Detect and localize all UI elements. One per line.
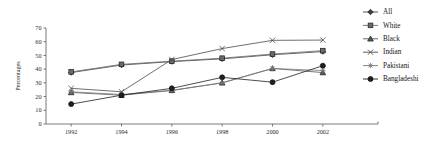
marker-square — [69, 70, 74, 75]
marker-circle — [69, 102, 74, 107]
legend-label-black: Black — [383, 35, 400, 43]
y-tick-label: 70 — [35, 24, 41, 31]
series-line-bangladeshi — [71, 66, 323, 104]
series-white — [69, 48, 325, 74]
line-chart: 010203040506070Percentages 1992199419961… — [0, 0, 439, 150]
marker-square — [220, 56, 225, 61]
legend-item-black[interactable]: Black — [363, 35, 400, 43]
y-tick-label: 30 — [35, 79, 41, 86]
marker-circle — [119, 93, 124, 98]
legend-item-white[interactable]: White — [363, 22, 401, 30]
legend-item-indian[interactable]: Indian — [363, 48, 402, 56]
y-tick-label: 60 — [35, 38, 41, 45]
x-tick-label: 1998 — [216, 128, 228, 135]
marker-square — [270, 52, 275, 57]
x-tick-label: 2002 — [317, 128, 329, 135]
marker-circle — [220, 75, 225, 80]
legend-item-all[interactable]: All — [363, 8, 392, 16]
legend-label-pakistani: Pakistani — [383, 62, 409, 70]
y-tick-label: 50 — [35, 52, 41, 59]
y-tick-label: 0 — [38, 120, 41, 127]
chart-figure: 010203040506070Percentages 1992199419961… — [0, 0, 439, 150]
marker-square — [321, 48, 326, 53]
legend-label-bangladeshi: Bangladeshi — [383, 75, 419, 83]
x-tick-label: 2000 — [266, 128, 278, 135]
x-tick-label: 1994 — [115, 128, 127, 135]
legend-label-all: All — [383, 8, 392, 16]
legend-label-white: White — [383, 22, 401, 30]
series-indian — [68, 37, 325, 94]
chart-legend: AllWhiteBlackIndianPakistaniBangladeshi — [363, 8, 419, 83]
x-tick-label: 1992 — [65, 128, 77, 135]
y-axis-title: Percentages — [14, 61, 21, 91]
y-tick-label: 40 — [35, 65, 41, 72]
legend-item-pakistani[interactable]: Pakistani — [363, 62, 409, 70]
legend-label-indian: Indian — [383, 48, 402, 56]
y-axis: 010203040506070Percentages — [14, 24, 46, 127]
marker-circle — [320, 63, 325, 68]
x-axis: 199219941996199820002002 — [46, 122, 378, 136]
y-tick-label: 20 — [35, 93, 41, 100]
legend-item-bangladeshi[interactable]: Bangladeshi — [363, 75, 419, 83]
marker-circle — [270, 80, 275, 85]
y-tick-label: 10 — [35, 106, 41, 113]
x-tick-label: 1996 — [166, 128, 178, 135]
marker-square — [119, 62, 124, 67]
series-pakistani — [68, 66, 325, 97]
series-black — [68, 66, 325, 98]
marker-diamond — [368, 9, 373, 14]
marker-circle — [368, 77, 373, 82]
marker-circle — [169, 86, 174, 91]
marker-square — [368, 23, 373, 28]
series-layer — [68, 37, 325, 106]
